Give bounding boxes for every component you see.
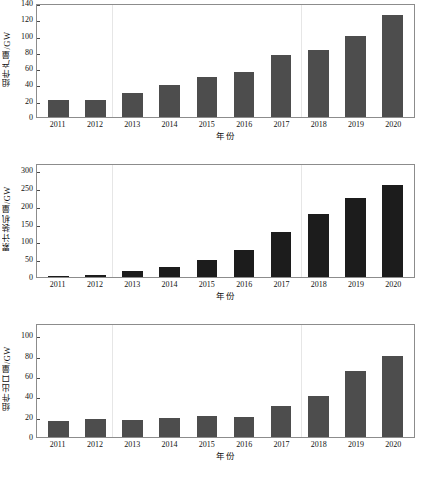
bar-slot bbox=[374, 5, 411, 117]
y-tick-mark bbox=[37, 5, 40, 6]
plot-area bbox=[36, 164, 415, 278]
bar-slot bbox=[263, 165, 300, 277]
y-tick-mark bbox=[37, 243, 40, 244]
plot-separator-line bbox=[112, 325, 113, 437]
bar bbox=[382, 15, 403, 117]
y-tick-mark bbox=[37, 337, 40, 338]
y-tick-mark bbox=[37, 398, 40, 399]
y-tick-mark bbox=[37, 208, 40, 209]
bar bbox=[271, 406, 292, 437]
bar-slot bbox=[151, 325, 188, 437]
bar-slot bbox=[337, 325, 374, 437]
bar-slot bbox=[40, 325, 77, 437]
y-tick-mark bbox=[37, 358, 40, 359]
y-tick-label: 300 bbox=[21, 167, 33, 175]
bar-slot bbox=[114, 325, 151, 437]
bar bbox=[122, 271, 143, 277]
plot-separator-line bbox=[112, 5, 113, 117]
y-tick-mark bbox=[37, 190, 40, 191]
y-tick-label: 40 bbox=[25, 81, 33, 89]
y-tick-mark bbox=[37, 21, 40, 22]
y-tick-label: 100 bbox=[21, 238, 33, 246]
plot-separator-line bbox=[301, 5, 302, 117]
y-tick-label: 60 bbox=[25, 373, 33, 381]
bar-slot bbox=[114, 5, 151, 117]
bar bbox=[345, 371, 366, 437]
bar bbox=[159, 267, 180, 277]
bar bbox=[122, 93, 143, 117]
y-tick-mark bbox=[37, 378, 40, 379]
bar-slot bbox=[374, 165, 411, 277]
y-tick-label: 20 bbox=[25, 98, 33, 106]
bar-slot bbox=[225, 165, 262, 277]
y-tick-label: 150 bbox=[21, 221, 33, 229]
bar bbox=[122, 420, 143, 437]
bar bbox=[48, 276, 69, 277]
bar-slot bbox=[188, 325, 225, 437]
bar-slot bbox=[263, 325, 300, 437]
y-tick-label: 20 bbox=[25, 414, 33, 422]
y-tick-label: 40 bbox=[25, 393, 33, 401]
bar-slot bbox=[337, 5, 374, 117]
plot-area bbox=[36, 4, 415, 118]
bar bbox=[85, 419, 106, 437]
bar bbox=[382, 356, 403, 437]
bar-slot bbox=[77, 5, 114, 117]
bar bbox=[85, 100, 106, 118]
bar-slot bbox=[188, 165, 225, 277]
bar-slot bbox=[300, 325, 337, 437]
x-axis-title: 年份 bbox=[36, 290, 415, 303]
bar bbox=[234, 72, 255, 117]
bar bbox=[85, 275, 106, 277]
y-tick-label: 50 bbox=[25, 256, 33, 264]
bar bbox=[308, 50, 329, 117]
bar bbox=[345, 36, 366, 117]
bar bbox=[197, 416, 218, 437]
bar-slot bbox=[40, 165, 77, 277]
bar-slot bbox=[337, 165, 374, 277]
y-tick-label: 120 bbox=[21, 16, 33, 24]
bar bbox=[308, 396, 329, 437]
bar bbox=[308, 214, 329, 277]
bar-slot bbox=[225, 5, 262, 117]
y-tick-label: 100 bbox=[21, 33, 33, 41]
y-tick-label: 140 bbox=[21, 0, 33, 8]
y-tick-label: 250 bbox=[21, 185, 33, 193]
y-tick-mark bbox=[37, 70, 40, 71]
y-tick-mark bbox=[37, 172, 40, 173]
bar bbox=[271, 55, 292, 117]
y-tick-label: 200 bbox=[21, 203, 33, 211]
y-tick-mark bbox=[37, 38, 40, 39]
bar bbox=[197, 77, 218, 117]
bar-slot bbox=[77, 325, 114, 437]
bar-series bbox=[37, 165, 414, 277]
y-tick-label: 100 bbox=[21, 332, 33, 340]
y-tick-mark bbox=[37, 226, 40, 227]
bar bbox=[48, 421, 69, 437]
y-axis-tick-labels: 020406080100 bbox=[12, 320, 34, 438]
y-tick-mark bbox=[37, 103, 40, 104]
bar-series bbox=[37, 325, 414, 437]
y-tick-label: 0 bbox=[29, 114, 33, 122]
y-tick-label: 0 bbox=[29, 274, 33, 282]
y-axis-tick-labels: 020406080100120140 bbox=[12, 0, 34, 118]
plot-area bbox=[36, 324, 415, 438]
bar bbox=[197, 260, 218, 277]
bar-slot bbox=[225, 325, 262, 437]
bar-slot bbox=[188, 5, 225, 117]
bar-slot bbox=[374, 325, 411, 437]
bar bbox=[234, 417, 255, 437]
y-tick-mark bbox=[37, 261, 40, 262]
plot-separator-line bbox=[112, 165, 113, 277]
bar-slot bbox=[114, 165, 151, 277]
bar-slot bbox=[151, 165, 188, 277]
bar bbox=[271, 232, 292, 277]
bar bbox=[382, 185, 403, 277]
bar bbox=[234, 250, 255, 277]
bar bbox=[159, 418, 180, 437]
plot-separator-line bbox=[301, 165, 302, 277]
bar-series bbox=[37, 5, 414, 117]
bar-slot bbox=[300, 5, 337, 117]
bar bbox=[159, 85, 180, 117]
bar-slot bbox=[263, 5, 300, 117]
